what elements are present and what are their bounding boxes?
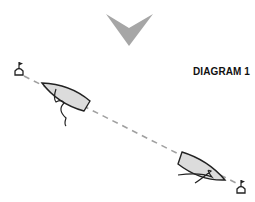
diagram-title: DIAGRAM 1	[193, 66, 250, 77]
mark-left-icon	[15, 62, 23, 75]
boat-upper-left-icon	[42, 83, 90, 126]
wind-arrow-icon	[106, 14, 153, 46]
mark-right-icon	[237, 180, 245, 193]
boat-lower-right-icon	[178, 152, 225, 183]
diagram-canvas	[0, 0, 255, 202]
